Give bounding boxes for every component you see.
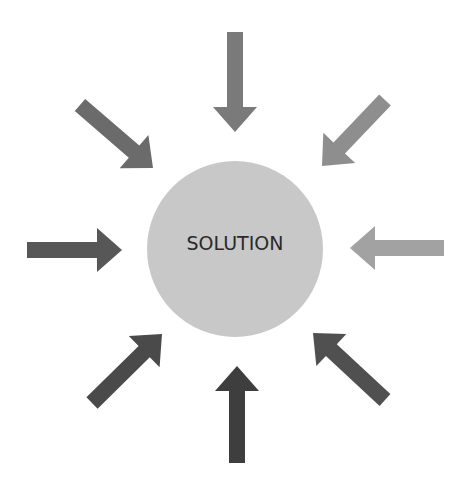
arrow-top-icon — [213, 32, 257, 132]
arrow-right-icon — [350, 226, 444, 270]
arrow-left-icon — [27, 228, 122, 272]
solution-label: SOLUTION — [147, 232, 323, 254]
arrow-top-left-icon — [75, 99, 153, 168]
arrow-bottom-right-icon — [313, 333, 390, 406]
arrow-bottom-left-icon — [86, 334, 162, 409]
arrow-bottom-icon — [215, 366, 259, 463]
arrow-top-right-icon — [322, 95, 391, 167]
